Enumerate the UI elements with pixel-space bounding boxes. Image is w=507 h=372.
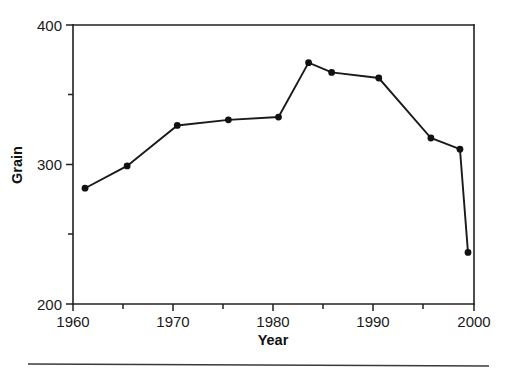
data-point bbox=[225, 116, 232, 123]
data-point bbox=[174, 122, 181, 129]
x-axis-ticks bbox=[73, 304, 474, 311]
y-tick-label-300: 300 bbox=[37, 156, 62, 173]
series-markers bbox=[82, 59, 472, 256]
footer-divider bbox=[28, 364, 489, 366]
plot-frame bbox=[73, 25, 474, 304]
data-point bbox=[275, 114, 282, 121]
x-tick-label-2000: 2000 bbox=[457, 313, 490, 330]
series-grain bbox=[82, 59, 472, 256]
line-chart: 400 300 200 1960 1970 1980 1990 2000 Yea… bbox=[0, 0, 507, 372]
data-point bbox=[305, 59, 312, 66]
data-point bbox=[375, 75, 382, 82]
y-tick-label-400: 400 bbox=[37, 17, 62, 34]
data-point bbox=[124, 163, 131, 170]
x-tick-label-1970: 1970 bbox=[156, 313, 189, 330]
x-tick-label-1960: 1960 bbox=[56, 313, 89, 330]
figure-container: 400 300 200 1960 1970 1980 1990 2000 Yea… bbox=[0, 0, 507, 372]
series-line bbox=[85, 63, 468, 253]
data-point bbox=[82, 185, 89, 192]
y-tick-label-200: 200 bbox=[37, 296, 62, 313]
y-axis-ticks bbox=[66, 25, 73, 304]
data-point bbox=[465, 249, 472, 256]
data-point bbox=[457, 146, 464, 153]
data-point bbox=[427, 135, 434, 142]
x-axis-title: Year bbox=[258, 332, 289, 348]
data-point bbox=[328, 69, 335, 76]
x-tick-label-1990: 1990 bbox=[356, 313, 389, 330]
x-tick-label-1980: 1980 bbox=[256, 313, 289, 330]
y-axis-title: Grain bbox=[9, 146, 25, 184]
